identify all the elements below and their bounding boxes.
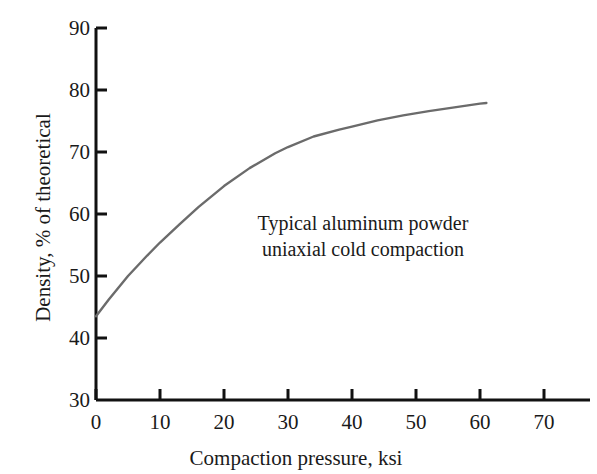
annotation-line-2: uniaxial cold compaction — [228, 236, 498, 262]
xtick-label-20: 20 — [204, 412, 244, 433]
annotation-line-1: Typical aluminum powder — [228, 210, 498, 236]
xtick-label-0: 0 — [76, 412, 116, 433]
x-axis-title: Compaction pressure, ksi — [96, 446, 496, 471]
xtick-label-30: 30 — [268, 412, 308, 433]
chart-figure: 90 80 70 60 50 40 30 0 10 20 30 40 50 60… — [0, 0, 597, 474]
xtick-label-40: 40 — [332, 412, 372, 433]
xtick-label-50: 50 — [396, 412, 436, 433]
ytick-label-90: 90 — [44, 18, 90, 39]
y-axis-ticks — [96, 28, 107, 338]
y-axis-title: Density, % of theoretical — [31, 53, 56, 383]
x-axis-ticks — [96, 389, 544, 400]
xtick-label-60: 60 — [460, 412, 500, 433]
curve-annotation: Typical aluminum powder uniaxial cold co… — [228, 210, 498, 262]
ytick-label-30: 30 — [44, 390, 90, 411]
xtick-label-10: 10 — [140, 412, 180, 433]
xtick-label-70: 70 — [524, 412, 564, 433]
